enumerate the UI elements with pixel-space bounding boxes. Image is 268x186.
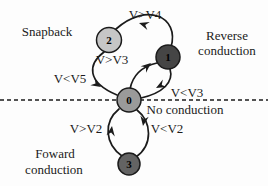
node-3-label: 3 [126, 158, 132, 170]
edge-label-v-gt-v2: V>V2 [70, 121, 103, 136]
node-0-label: 0 [126, 94, 132, 106]
state-node-1: 1 [156, 45, 180, 69]
state-diagram-canvas: 2 1 0 3 V>V4 V>V3 V<V5 V<V3 V>V2 V<V2 Sn… [0, 0, 268, 186]
edge-label-v-gt-v4: V>V4 [129, 7, 162, 22]
region-label-reverse-conduction: Reverse conduction [198, 28, 256, 58]
edge-label-v-lt-v5: V<V5 [54, 71, 87, 86]
state-node-0: 0 [117, 88, 141, 112]
region-label-forward-line2: conduction [25, 162, 83, 177]
region-label-snapback: Snapback [22, 24, 73, 39]
region-label-reverse-line2: conduction [198, 43, 256, 58]
node-2-label: 2 [106, 34, 112, 46]
region-label-forward-line1: Foward [35, 146, 75, 161]
edge-label-v-lt-v3: V<V3 [171, 85, 204, 100]
arrowhead-to-node1 [141, 60, 154, 73]
edge-node1-to-node0 [141, 69, 171, 98]
arrowhead-to-node0-left [90, 78, 103, 90]
edge-label-v-gt-v3: V>V3 [96, 52, 129, 67]
edge-label-v-lt-v2: V<V2 [151, 121, 184, 136]
region-label-reverse-line1: Reverse [206, 28, 248, 43]
edge-node0-to-node3 [136, 110, 149, 157]
state-node-2: 2 [97, 28, 122, 53]
region-label-forward-conduction: Foward conduction [25, 146, 83, 177]
state-diagram-figure: 2 1 0 3 V>V4 V>V3 V<V5 V<V3 V>V2 V<V2 Sn… [0, 0, 268, 186]
edge-node0-to-node1 [130, 63, 157, 89]
state-node-3: 3 [118, 153, 140, 175]
region-label-no-conduction: No conduction [147, 102, 224, 117]
node-1-label: 1 [165, 51, 171, 63]
